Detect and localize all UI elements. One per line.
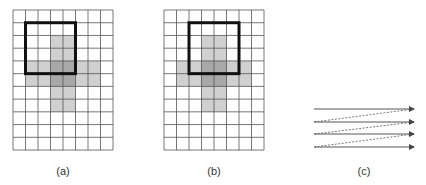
diagram-canvas — [0, 0, 426, 185]
panel-b-grid — [164, 10, 264, 150]
panel-c-scan-order — [314, 109, 414, 147]
panel-b-label: (b) — [207, 165, 220, 177]
return-diagonal — [314, 134, 414, 147]
panel-a-grid — [13, 10, 113, 150]
return-diagonal — [314, 122, 414, 134]
panel-a-label: (a) — [56, 165, 69, 177]
panel-c-label: (c) — [358, 165, 371, 177]
return-diagonal — [314, 109, 414, 122]
